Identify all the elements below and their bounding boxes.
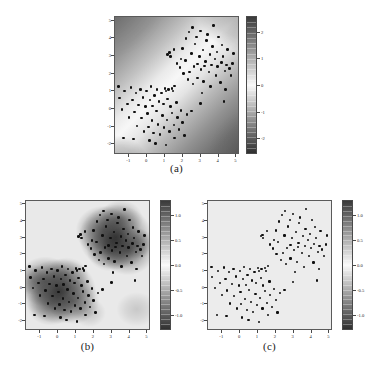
data-point bbox=[106, 219, 109, 222]
data-point bbox=[42, 278, 45, 281]
data-point bbox=[217, 36, 220, 39]
data-point bbox=[144, 105, 147, 108]
data-point bbox=[95, 241, 98, 244]
data-point bbox=[307, 239, 309, 241]
y-tick-label: 2 bbox=[14, 251, 22, 256]
data-point bbox=[160, 92, 163, 95]
y-tick bbox=[111, 73, 114, 74]
data-point bbox=[168, 51, 171, 54]
data-point bbox=[111, 249, 114, 252]
y-tick bbox=[22, 270, 25, 271]
data-point bbox=[89, 306, 92, 309]
data-point bbox=[244, 298, 246, 300]
data-point bbox=[255, 282, 257, 284]
y-tick bbox=[111, 143, 114, 144]
data-point bbox=[279, 292, 281, 294]
data-point bbox=[102, 210, 105, 213]
data-point bbox=[295, 231, 297, 233]
data-point bbox=[93, 253, 96, 256]
data-point bbox=[238, 284, 240, 286]
colorbar-tick-label: 2 bbox=[261, 29, 263, 34]
x-tick-label: 3 bbox=[292, 334, 294, 339]
data-point bbox=[224, 278, 226, 280]
data-point bbox=[210, 266, 212, 268]
data-point bbox=[226, 289, 228, 291]
y-tick-label: 3 bbox=[196, 234, 204, 239]
data-point bbox=[268, 280, 270, 282]
data-point bbox=[105, 225, 108, 228]
x-tick bbox=[257, 330, 258, 333]
data-point bbox=[266, 302, 268, 304]
data-point bbox=[272, 247, 274, 249]
data-point bbox=[297, 246, 299, 248]
y-tick-label: -2 bbox=[14, 318, 22, 323]
colorbar-tick bbox=[171, 215, 174, 216]
data-point bbox=[72, 292, 75, 295]
y-tick bbox=[204, 320, 207, 321]
data-point bbox=[114, 246, 117, 249]
x-tick-label: 2 bbox=[274, 334, 276, 339]
data-point bbox=[84, 265, 87, 268]
data-point bbox=[321, 248, 323, 250]
data-point bbox=[318, 268, 320, 270]
data-point bbox=[313, 243, 315, 245]
x-tick bbox=[200, 154, 201, 157]
data-point bbox=[133, 237, 136, 240]
y-tick bbox=[204, 220, 207, 221]
y-tick bbox=[204, 270, 207, 271]
data-point bbox=[128, 219, 131, 222]
y-tick-label: 5 bbox=[196, 201, 204, 206]
data-point bbox=[139, 88, 142, 91]
data-point bbox=[211, 45, 214, 48]
data-point bbox=[150, 85, 153, 88]
data-point bbox=[123, 208, 126, 211]
data-point bbox=[247, 319, 249, 321]
data-point bbox=[315, 237, 317, 239]
data-point bbox=[232, 268, 234, 270]
panel-a-heatmap bbox=[114, 16, 239, 154]
x-tick bbox=[221, 330, 222, 333]
data-point bbox=[121, 245, 124, 248]
data-point bbox=[133, 111, 136, 114]
panel-a: -1012345-2-1012345 210-1-2 (a) bbox=[104, 16, 284, 176]
y-tick bbox=[22, 253, 25, 254]
colorbar-tick bbox=[171, 240, 174, 241]
data-point bbox=[77, 277, 80, 280]
data-point bbox=[143, 130, 146, 133]
data-point bbox=[180, 58, 183, 61]
data-point bbox=[131, 242, 134, 245]
data-point bbox=[214, 287, 216, 289]
data-point bbox=[84, 230, 87, 233]
colorbar-tick bbox=[353, 315, 356, 316]
x-tick-label: 5 bbox=[145, 334, 147, 339]
data-point bbox=[80, 284, 83, 287]
data-point bbox=[261, 307, 263, 309]
x-tick-label: 0 bbox=[56, 334, 58, 339]
data-point bbox=[228, 67, 231, 70]
x-tick-label: 5 bbox=[327, 334, 329, 339]
data-point bbox=[173, 85, 176, 88]
panel-b: -1012345-2-1012345 1.00.50.0-0.5-1.0 (b) bbox=[14, 200, 189, 370]
data-point bbox=[309, 233, 311, 235]
data-point bbox=[212, 24, 215, 27]
data-point bbox=[135, 92, 138, 95]
data-point bbox=[92, 229, 95, 232]
data-point bbox=[287, 225, 289, 227]
data-point bbox=[283, 289, 285, 291]
data-point bbox=[137, 230, 140, 233]
data-point bbox=[304, 228, 306, 230]
data-point bbox=[191, 26, 194, 29]
data-point bbox=[37, 282, 40, 285]
data-point bbox=[84, 314, 87, 317]
data-point bbox=[104, 246, 107, 249]
data-point bbox=[154, 142, 157, 145]
data-point bbox=[165, 144, 168, 147]
data-point bbox=[245, 284, 247, 286]
data-point bbox=[171, 112, 174, 115]
data-point bbox=[73, 282, 76, 285]
data-point bbox=[46, 271, 49, 274]
data-point bbox=[231, 283, 233, 285]
data-point bbox=[141, 255, 144, 258]
data-point bbox=[251, 279, 253, 281]
data-point bbox=[62, 297, 65, 300]
